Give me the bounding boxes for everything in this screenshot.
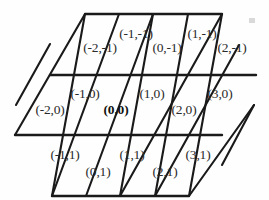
cell-label-cell-2-0: (2,0) xyxy=(172,103,197,117)
cell-label-cell-m2-0: (-2,0) xyxy=(35,103,64,117)
cell-label-cell-0-1: (0,1) xyxy=(86,165,111,179)
edge-diag-slash-1 xyxy=(16,44,50,105)
cell-label-cell-0-m1: (0,-1) xyxy=(152,41,181,55)
cell-label-cell-0-0: (0,0) xyxy=(104,103,129,117)
cell-label-cell-3-1: (3,1) xyxy=(186,148,211,162)
cell-label-cell-m1-0: (-1,0) xyxy=(70,87,99,101)
cell-label-cell-1-1: (1,1) xyxy=(120,148,145,162)
cell-label-cell-3-0: (3,0) xyxy=(208,87,233,101)
triangular-lattice-figure: (-2,-1)(-1,-1)(0,-1)(1,-1)(2,-1)(-2,0)(-… xyxy=(0,0,269,200)
cell-label-cell-m2-m1: (-2,-1) xyxy=(83,41,116,55)
cell-label-cell-2-m1: (2,-1) xyxy=(217,41,246,55)
edge-diag-back-6 xyxy=(222,105,254,165)
cell-label-cell-1-m1: (1,-1) xyxy=(187,27,216,41)
cell-label-cell-m1-m1: (-1,-1) xyxy=(119,27,152,41)
cell-label-cell-2-1: (2,1) xyxy=(153,165,178,179)
cell-label-cell-1-0: (1,0) xyxy=(140,87,165,101)
cell-label-cell-m1-1: (-1,1) xyxy=(50,148,79,162)
scan-speck-top-right xyxy=(249,18,255,23)
